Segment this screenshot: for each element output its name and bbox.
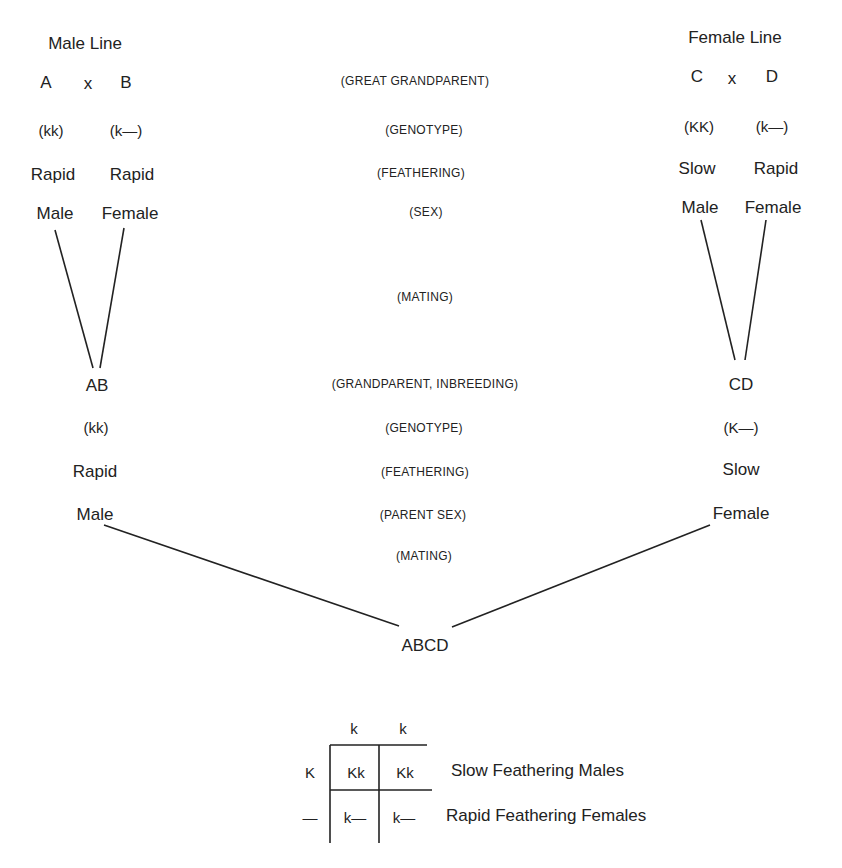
grandparent-ab-feathering: Rapid bbox=[73, 462, 117, 482]
parent-d-feathering: Rapid bbox=[754, 159, 798, 179]
line-cd-to-abcd bbox=[452, 525, 710, 627]
punnett-cell-1-1: Kk bbox=[347, 764, 365, 781]
parent-a-feathering: Rapid bbox=[31, 165, 75, 185]
parent-b-feathering: Rapid bbox=[110, 165, 154, 185]
line-c-to-cd bbox=[701, 220, 735, 360]
punnett-col-header-1: k bbox=[350, 720, 358, 737]
parent-b-name: B bbox=[120, 73, 131, 93]
punnett-row-header-1: K bbox=[305, 764, 315, 781]
grandparent-ab-name: AB bbox=[86, 376, 109, 396]
female-cross-symbol: x bbox=[728, 69, 737, 89]
label-genotype-1: (GENOTYPE) bbox=[385, 123, 463, 137]
grandparent-cd-feathering: Slow bbox=[723, 460, 760, 480]
parent-b-genotype: (k—) bbox=[110, 122, 143, 139]
grandparent-ab-sex: Male bbox=[77, 505, 114, 525]
label-feathering-1: (FEATHERING) bbox=[377, 166, 465, 180]
line-b-to-ab bbox=[100, 228, 124, 368]
punnett-cell-2-2: k— bbox=[393, 809, 416, 826]
grandparent-ab-genotype: (kk) bbox=[84, 419, 109, 436]
grandparent-cd-name: CD bbox=[729, 375, 754, 395]
male-line-title: Male Line bbox=[48, 34, 122, 54]
label-parent-sex: (PARENT SEX) bbox=[380, 508, 467, 522]
label-mating-2: (MATING) bbox=[396, 549, 452, 563]
label-great-grandparent: (GREAT GRANDPARENT) bbox=[341, 74, 489, 88]
parent-a-genotype: (kk) bbox=[39, 122, 64, 139]
label-mating-1: (MATING) bbox=[397, 290, 453, 304]
parent-b-sex: Female bbox=[102, 204, 159, 224]
parent-a-sex: Male bbox=[37, 204, 74, 224]
parent-a-name: A bbox=[40, 73, 51, 93]
line-d-to-cd bbox=[745, 220, 766, 360]
male-cross-symbol: x bbox=[84, 74, 93, 94]
parent-d-name: D bbox=[766, 67, 778, 87]
label-sex: (SEX) bbox=[409, 205, 443, 219]
punnett-row-header-2: — bbox=[303, 809, 318, 826]
punnett-cell-2-1: k— bbox=[344, 809, 367, 826]
punnett-col-header-2: k bbox=[399, 720, 407, 737]
parent-d-sex: Female bbox=[745, 198, 802, 218]
label-grandparent-inbreeding: (GRANDPARENT, INBREEDING) bbox=[332, 377, 519, 391]
punnett-legend-row-1: Slow Feathering Males bbox=[451, 761, 624, 781]
line-a-to-ab bbox=[55, 230, 93, 368]
parent-d-genotype: (k—) bbox=[756, 118, 789, 135]
line-ab-to-abcd bbox=[104, 525, 399, 626]
parent-c-name: C bbox=[691, 67, 703, 87]
grandparent-cd-sex: Female bbox=[713, 504, 770, 524]
label-genotype-2: (GENOTYPE) bbox=[385, 421, 463, 435]
parent-c-feathering: Slow bbox=[679, 159, 716, 179]
grandparent-cd-genotype: (K—) bbox=[724, 419, 759, 436]
label-feathering-2: (FEATHERING) bbox=[381, 465, 469, 479]
female-line-title: Female Line bbox=[688, 28, 782, 48]
parent-c-genotype: (KK) bbox=[684, 118, 714, 135]
punnett-legend-row-2: Rapid Feathering Females bbox=[446, 806, 646, 826]
punnett-cell-1-2: Kk bbox=[396, 764, 414, 781]
final-cross-abcd: ABCD bbox=[401, 636, 448, 656]
parent-c-sex: Male bbox=[682, 198, 719, 218]
